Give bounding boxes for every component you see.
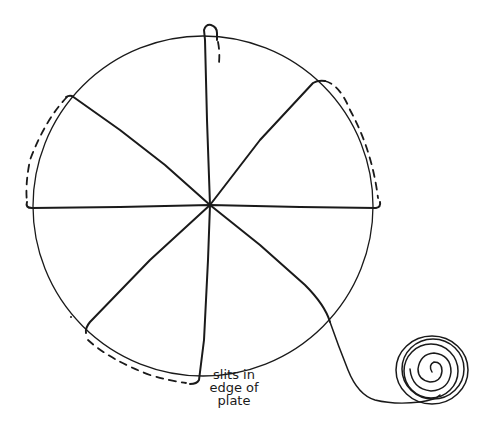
spoke-horizontal (27, 202, 381, 208)
label-line-3: plate (204, 394, 264, 407)
yarn-strand (330, 322, 440, 403)
spoke-upper-left (66, 96, 210, 205)
spoke-vertical-top (204, 25, 217, 205)
back-yarn-right (325, 81, 378, 198)
spoke-vertical-bottom (190, 205, 210, 384)
stray-mark (70, 316, 72, 318)
slits-label: slits in edge of plate (204, 368, 264, 407)
spoke-upper-right (210, 81, 325, 205)
yarn-ball (396, 336, 468, 404)
back-yarn-top (218, 42, 219, 63)
spoke-lower-right (210, 205, 330, 322)
spoke-lower-left (86, 205, 210, 333)
back-yarn-bottom (88, 340, 186, 383)
